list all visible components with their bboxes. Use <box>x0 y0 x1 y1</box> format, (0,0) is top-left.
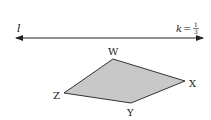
line-label: l <box>17 22 21 35</box>
scale-denominator: 3 <box>194 28 198 35</box>
vertex-label-y: Y <box>126 107 134 118</box>
scale-factor-label: k = 1 3 <box>176 21 199 35</box>
vertex-label-x: X <box>189 78 197 89</box>
vertex-label-z: Z <box>53 90 60 101</box>
scale-variable: k <box>176 23 182 34</box>
quadrilateral-wxyz <box>64 59 185 103</box>
dilation-diagram: l k = 1 3 W X Y Z <box>0 0 211 120</box>
vertex-label-w: W <box>108 46 119 57</box>
scale-equals: = <box>183 23 191 34</box>
scale-numerator: 1 <box>194 21 198 28</box>
